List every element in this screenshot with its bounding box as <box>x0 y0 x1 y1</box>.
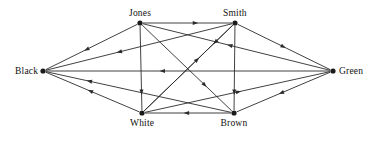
node-dot-white[interactable] <box>139 110 144 115</box>
arrow-head-icon-green-to-brown <box>279 90 285 94</box>
node-dot-brown[interactable] <box>231 110 236 115</box>
arrow-head-icon-green-to-black <box>160 69 165 73</box>
arrow-head-icon-jones-to-black <box>84 46 90 50</box>
graph-canvas <box>0 0 377 142</box>
edge-green-to-jones <box>143 24 330 71</box>
node-label-brown: Brown <box>221 118 248 128</box>
node-dot-jones[interactable] <box>137 20 142 25</box>
node-label-green: Green <box>339 66 363 76</box>
node-dot-black[interactable] <box>40 68 45 73</box>
node-dot-smith[interactable] <box>232 20 237 25</box>
edge-smith-to-brown <box>234 26 235 110</box>
edges-layer <box>46 21 331 115</box>
arrow-head-icon-brown-to-white <box>184 111 189 115</box>
node-label-smith: Smith <box>223 8 247 18</box>
arrow-head-icon-white-to-black <box>88 90 94 94</box>
arrow-head-icon-green-to-jones <box>227 44 233 48</box>
node-label-black: Black <box>15 66 38 76</box>
edge-smith-to-black <box>46 24 232 71</box>
arrow-head-icon-smith-to-black <box>117 49 123 53</box>
node-label-white: White <box>130 118 154 128</box>
arrow-head-icon-jones-to-smith <box>193 21 198 25</box>
edge-jones-to-brown <box>142 25 232 111</box>
edge-white-to-smith <box>144 25 233 111</box>
node-dot-green[interactable] <box>330 68 335 73</box>
directed-graph-diagram: BlackJonesSmithGreenWhiteBrown <box>0 0 377 142</box>
edge-jones-to-black <box>46 24 138 69</box>
edge-brown-to-black <box>46 72 231 113</box>
arrow-head-icon-smith-to-green <box>280 44 286 48</box>
edge-jones-to-white <box>140 26 142 110</box>
node-label-jones: Jones <box>129 8 151 18</box>
